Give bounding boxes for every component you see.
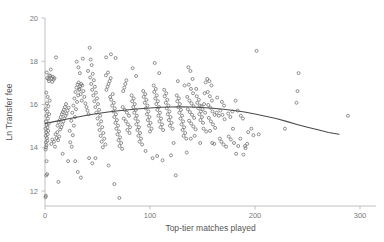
scatter-point bbox=[78, 72, 81, 75]
scatter-point bbox=[186, 95, 189, 98]
scatter-point bbox=[131, 100, 134, 103]
scatter-point bbox=[203, 92, 206, 95]
axes-group bbox=[45, 18, 376, 206]
scatter-point bbox=[84, 102, 87, 105]
scatter-point bbox=[120, 141, 123, 144]
scatter-point bbox=[72, 104, 75, 107]
scatter-point bbox=[252, 134, 255, 137]
scatter-point bbox=[229, 116, 232, 119]
scatter-point bbox=[92, 94, 95, 97]
scatter-point bbox=[113, 183, 116, 186]
scatter-point bbox=[70, 119, 73, 122]
scatter-point bbox=[57, 139, 60, 142]
scatter-point bbox=[199, 119, 202, 122]
scatter-point bbox=[165, 92, 168, 95]
scatter-point bbox=[188, 99, 191, 102]
scatter-point bbox=[103, 137, 106, 140]
scatter-point bbox=[223, 104, 226, 107]
scatter-point bbox=[122, 117, 125, 120]
scatter-point bbox=[121, 106, 124, 109]
scatter-point bbox=[154, 97, 157, 100]
scatter-point bbox=[98, 129, 101, 132]
scatter-point bbox=[176, 100, 179, 103]
scatter-point bbox=[158, 111, 161, 114]
scatter-point bbox=[70, 145, 73, 148]
scatter-point bbox=[158, 120, 161, 123]
scatter-point bbox=[176, 80, 179, 83]
scatter-point bbox=[72, 124, 75, 127]
scatter-point bbox=[110, 98, 113, 101]
scatter-point bbox=[138, 140, 141, 143]
scatter-point bbox=[75, 86, 78, 89]
scatter-point bbox=[101, 126, 104, 129]
scatter-point bbox=[164, 101, 167, 104]
scatter-point bbox=[99, 114, 102, 117]
scatter-point bbox=[191, 113, 194, 116]
y-tick-label: 18 bbox=[30, 57, 38, 66]
scatter-point bbox=[211, 110, 214, 113]
scatter-point bbox=[197, 98, 200, 101]
scatter-point bbox=[217, 114, 220, 117]
scatter-point bbox=[108, 80, 111, 83]
scatter-point bbox=[129, 126, 132, 129]
scatter-point bbox=[88, 46, 91, 49]
x-axis-ticks: 0100200300 bbox=[43, 206, 366, 220]
scatter-point bbox=[76, 100, 79, 103]
scatter-point bbox=[216, 96, 219, 99]
scatter-point bbox=[82, 90, 85, 93]
scatter-point bbox=[157, 114, 160, 117]
scatter-point bbox=[152, 84, 155, 87]
scatter-point bbox=[94, 157, 97, 160]
scatter-point bbox=[140, 137, 143, 140]
scatter-point bbox=[179, 117, 182, 120]
scatter-point bbox=[50, 142, 53, 145]
x-tick-label: 100 bbox=[144, 211, 157, 220]
scatter-point bbox=[67, 160, 70, 163]
scatter-point bbox=[58, 135, 61, 138]
scatter-point bbox=[55, 56, 58, 59]
scatter-point bbox=[188, 111, 191, 114]
scatter-point bbox=[185, 137, 188, 140]
scatter-point bbox=[231, 127, 234, 130]
scatter-point bbox=[153, 90, 156, 93]
scatter-point bbox=[203, 103, 206, 106]
scatter-point bbox=[52, 140, 55, 143]
scatter-point bbox=[89, 76, 92, 79]
scatter-point bbox=[161, 159, 164, 162]
scatter-point bbox=[63, 106, 66, 109]
scatter-point bbox=[132, 106, 135, 109]
scatter-point bbox=[229, 138, 232, 141]
scatter-point bbox=[189, 69, 192, 72]
scatter-point bbox=[86, 109, 89, 112]
scatter-point bbox=[118, 196, 121, 199]
scatter-point bbox=[91, 88, 94, 91]
scatter-point bbox=[163, 88, 166, 91]
scatter-point bbox=[76, 170, 79, 173]
scatter-point bbox=[189, 87, 192, 90]
scatter-point bbox=[233, 141, 236, 144]
scatter-point bbox=[136, 129, 139, 132]
scatter-point bbox=[283, 127, 286, 130]
scatter-point bbox=[148, 116, 151, 119]
y-axis-title: Ln Transfer fee bbox=[4, 83, 14, 140]
scatter-point bbox=[220, 140, 223, 143]
scatter-point bbox=[166, 98, 169, 101]
scatter-point bbox=[102, 132, 105, 135]
scatter-point bbox=[105, 56, 108, 59]
scatter-point bbox=[181, 129, 184, 132]
scatter-point bbox=[225, 145, 228, 148]
scatter-point bbox=[178, 111, 181, 114]
scatter-point bbox=[198, 113, 201, 116]
scatter-point bbox=[95, 97, 98, 100]
scatter-point bbox=[180, 123, 183, 126]
scatter-point bbox=[92, 79, 95, 82]
scatter-point bbox=[115, 127, 118, 130]
scatter-point bbox=[94, 91, 97, 94]
plot-canvas: 1214161820 0100200300 Top-tier matches p… bbox=[0, 0, 384, 242]
scatter-point bbox=[113, 116, 116, 119]
scatter-point bbox=[116, 124, 119, 127]
scatter-point bbox=[166, 113, 169, 116]
scatter-point bbox=[220, 100, 223, 103]
scatter-point bbox=[125, 111, 128, 114]
scatter-point bbox=[234, 99, 237, 102]
